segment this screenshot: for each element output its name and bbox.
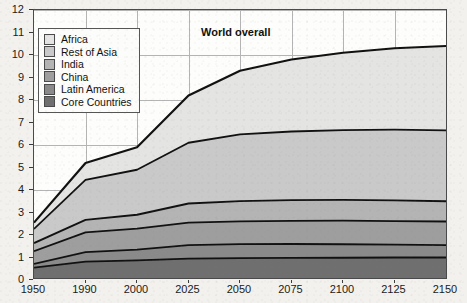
x-axis-tick-label: 1950: [13, 284, 53, 295]
legend-item-china[interactable]: China: [44, 71, 132, 84]
y-axis-tick-label: 7: [2, 117, 24, 128]
legend-item-label: Latin America: [61, 84, 125, 95]
y-axis-tick-label: 3: [2, 207, 24, 218]
x-axis-tickmark: [291, 280, 292, 283]
legend-item-india[interactable]: India: [44, 58, 132, 71]
legend-swatch-icon: [44, 96, 55, 107]
legend-swatch-icon: [44, 59, 55, 70]
annotation-world-overall: World overall: [201, 26, 270, 38]
y-axis-tickmark: [29, 189, 33, 190]
x-axis-tick-label: 2100: [322, 284, 362, 295]
legend-item-label: Core Countries: [61, 97, 132, 108]
legend-swatch-icon: [44, 34, 55, 45]
x-axis-tick-label: 1990: [65, 284, 105, 295]
y-axis-tickmark: [29, 167, 33, 168]
population-projection-area-chart: AfricaRest of AsiaIndiaChinaLatin Americ…: [0, 0, 467, 303]
x-axis-tick-label: 2050: [219, 284, 259, 295]
x-axis-tickmark: [394, 280, 395, 283]
y-axis-tickmark: [29, 212, 33, 213]
y-axis-tickmark: [29, 279, 33, 280]
y-axis-tick-label: 9: [2, 72, 24, 83]
x-axis-tickmark: [342, 280, 343, 283]
y-axis-tick-label: 12: [2, 4, 24, 15]
x-axis-tick-label: 2000: [116, 284, 156, 295]
y-axis-tickmark: [29, 9, 33, 10]
x-axis-tick-label: 2150: [425, 284, 465, 295]
x-axis-tickmark: [239, 280, 240, 283]
legend-item-core-countries[interactable]: Core Countries: [44, 96, 132, 109]
y-axis-tickmark: [29, 257, 33, 258]
y-axis-tick-label: 5: [2, 162, 24, 173]
y-axis-tickmark: [29, 99, 33, 100]
x-axis-tickmark: [136, 280, 137, 283]
legend-item-latin-america[interactable]: Latin America: [44, 83, 132, 96]
x-axis-tickmark: [85, 280, 86, 283]
y-axis-tickmark: [29, 122, 33, 123]
y-axis-tick-label: 4: [2, 184, 24, 195]
legend-swatch-icon: [44, 46, 55, 57]
y-axis-tickmark: [29, 144, 33, 145]
x-axis-tick-label: 2125: [374, 284, 414, 295]
x-axis-tick-label: 2025: [168, 284, 208, 295]
legend-item-rest-of-asia[interactable]: Rest of Asia: [44, 46, 132, 59]
y-axis-tick-label: 11: [2, 27, 24, 38]
legend-swatch-icon: [44, 71, 55, 82]
legend-item-africa[interactable]: Africa: [44, 33, 132, 46]
legend-item-label: Africa: [61, 34, 88, 45]
x-axis-tickmark: [188, 280, 189, 283]
y-axis-tickmark: [29, 77, 33, 78]
y-axis-tick-label: 10: [2, 49, 24, 60]
x-axis-tick-label: 2075: [271, 284, 311, 295]
y-axis-tickmark: [29, 54, 33, 55]
legend-item-label: China: [61, 72, 88, 83]
legend-item-label: India: [61, 59, 84, 70]
y-axis-tick-label: 8: [2, 94, 24, 105]
chart-legend: AfricaRest of AsiaIndiaChinaLatin Americ…: [38, 28, 140, 113]
y-axis-tick-label: 1: [2, 252, 24, 263]
y-axis-tickmark: [29, 234, 33, 235]
y-axis-tick-label: 6: [2, 139, 24, 150]
legend-item-label: Rest of Asia: [61, 47, 117, 58]
y-axis-tickmark: [29, 32, 33, 33]
y-axis-tick-label: 2: [2, 229, 24, 240]
legend-swatch-icon: [44, 84, 55, 95]
